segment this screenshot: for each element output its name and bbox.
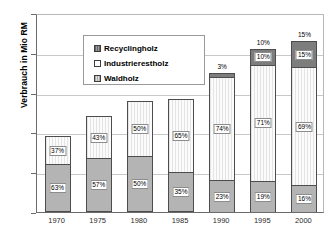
y-axis-title: Verbrauch in Mio RM (19, 0, 29, 145)
chart-legend: Recyclingholz Industrierestholz Waldholz (83, 35, 205, 85)
bar-segment-recyclingholz: 10% (250, 49, 276, 65)
x-axis-tick-label: 1995 (240, 216, 284, 225)
bar-top-percent-label: 3% (217, 63, 226, 71)
segment-percent-label: 19% (255, 192, 272, 202)
plot-area: 37%63%43%57%50%50%65%35%74%23%3%10%71%19… (36, 14, 324, 213)
bar-1975: 43%57% (86, 116, 112, 212)
bar-segment-waldholz: 35% (168, 172, 194, 212)
segment-percent-label: 15% (296, 50, 313, 60)
x-axis-tick-label: 1970 (35, 216, 79, 225)
segment-percent-label: 69% (296, 122, 313, 132)
bar-1970: 37%63% (45, 136, 71, 212)
x-axis-tick-label: 1985 (158, 216, 202, 225)
x-axis-tick-label: 1980 (117, 216, 161, 225)
bar-1980: 50%50% (127, 101, 153, 212)
segment-percent-label: 57% (90, 180, 107, 190)
x-axis-tick-label: 2000 (281, 216, 325, 225)
segment-percent-label: 10% (255, 52, 272, 62)
bar-1995: 10%71%19%10% (250, 49, 276, 212)
legend-swatch-industrierestholz-icon (94, 60, 101, 67)
chart-container: Verbrauch in Mio RM 0510152025 37%63%43%… (0, 0, 336, 244)
segment-percent-label: 71% (255, 118, 272, 128)
bar-segment-industrierestholz: 65% (168, 99, 194, 172)
bar-segment-waldholz: 19% (250, 181, 276, 212)
segment-percent-label: 43% (90, 133, 107, 143)
legend-item-recyclingholz: Recyclingholz (94, 41, 204, 56)
bar-segment-industrierestholz: 37% (45, 136, 71, 164)
legend-item-industrierestholz: Industrierestholz (94, 56, 204, 71)
legend-label: Recyclingholz (104, 44, 158, 53)
segment-percent-label: 65% (172, 131, 189, 141)
bar-top-percent-label: 10% (257, 39, 270, 47)
bar-segment-waldholz: 63% (45, 164, 71, 212)
x-axis-tick-label: 1975 (76, 216, 120, 225)
legend-label: Industrierestholz (104, 59, 168, 68)
y-axis-tick-mark (31, 213, 36, 214)
bar-segment-waldholz: 50% (127, 156, 153, 212)
legend-swatch-recyclingholz-icon (94, 45, 101, 52)
bar-segment-industrierestholz: 69% (291, 67, 317, 185)
bar-top-percent-label: 15% (298, 31, 311, 39)
gridline (37, 95, 323, 96)
bar-segment-industrierestholz: 50% (127, 101, 153, 157)
bar-segment-waldholz: 16% (291, 185, 317, 212)
bar-1990: 74%23%3% (209, 73, 235, 212)
legend-item-waldholz: Waldholz (94, 71, 204, 86)
segment-percent-label: 37% (49, 146, 66, 156)
legend-label: Waldholz (104, 74, 139, 83)
bar-segment-waldholz: 23% (209, 180, 235, 212)
bar-segment-industrierestholz: 74% (209, 77, 235, 180)
segment-percent-label: 16% (296, 194, 313, 204)
legend-swatch-waldholz-icon (94, 75, 101, 82)
segment-percent-label: 35% (172, 187, 189, 197)
bar-1985: 65%35% (168, 99, 194, 212)
bar-segment-recyclingholz: 15% (291, 41, 317, 67)
bar-segment-industrierestholz: 43% (86, 116, 112, 157)
segment-percent-label: 23% (214, 192, 231, 202)
bar-segment-waldholz: 57% (86, 158, 112, 212)
x-axis-tick-label: 1990 (199, 216, 243, 225)
bar-segment-industrierestholz: 71% (250, 65, 276, 181)
segment-percent-label: 50% (131, 179, 148, 189)
segment-percent-label: 74% (214, 124, 231, 134)
bar-2000: 15%69%16%15% (291, 41, 317, 212)
segment-percent-label: 63% (49, 183, 66, 193)
segment-percent-label: 50% (131, 124, 148, 134)
